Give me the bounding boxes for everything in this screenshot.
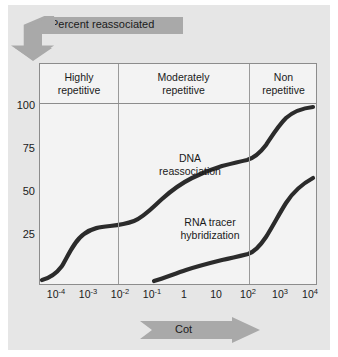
x-tick-1e-2: 10-2 (111, 288, 129, 300)
curve-dna-reassociation (42, 107, 313, 280)
curve-label-dna-line1: DNA (144, 152, 236, 165)
curve-label-dna: DNA reassociation (144, 152, 236, 177)
x-tick-1e4: 104 (302, 288, 318, 300)
curve-label-dna-line2: reassociation (144, 165, 236, 178)
y-tick-75: 75 (23, 142, 35, 154)
x-tick-1e2: 102 (240, 288, 256, 300)
region-header-row: Highly repetitive Moderately repetitive … (39, 63, 317, 104)
y-axis-banner: Percent reassociated (43, 17, 183, 34)
x-tick-1: 1 (181, 288, 187, 300)
curve-label-rna: RNA tracer hybridization (164, 216, 256, 241)
region-header-highly-repetitive: Highly repetitive (40, 64, 118, 103)
region-label-line1: Non (274, 71, 293, 83)
x-axis-banner-label: Cot (175, 323, 192, 335)
x-axis-arrow-icon (140, 317, 260, 343)
region-label-line2: repetitive (162, 84, 205, 96)
region-label-line1: Moderately (158, 71, 210, 83)
x-tick-1e-4: 10-4 (47, 288, 65, 300)
figure-root: Percent reassociated Highly repetitive M… (0, 0, 338, 357)
curve-label-rna-line2: hybridization (164, 229, 256, 242)
y-tick-25: 25 (23, 228, 35, 240)
y-tick-50: 50 (23, 185, 35, 197)
x-tick-10: 10 (210, 288, 222, 300)
region-divider-1-plot (118, 104, 119, 284)
region-label-line2: repetitive (262, 84, 305, 96)
x-tick-1e3: 103 (272, 288, 288, 300)
plot-area: DNA reassociation RNA tracer hybridizati… (39, 104, 317, 285)
x-tick-1e-1: 10-1 (143, 288, 161, 300)
curve-label-rna-line1: RNA tracer (164, 216, 256, 229)
region-label-line1: Highly (64, 71, 93, 83)
region-divider-1 (118, 64, 119, 103)
region-header-moderately-repetitive: Moderately repetitive (118, 64, 249, 103)
x-tick-1e-3: 10-3 (79, 288, 97, 300)
x-tick-labels: 10-4 10-3 10-2 10-1 1 10 102 103 104 (39, 288, 317, 304)
y-tick-100: 100 (17, 99, 35, 111)
region-divider-2-plot (249, 104, 250, 284)
region-label-line2: repetitive (58, 84, 101, 96)
curves-layer (40, 104, 316, 283)
region-header-non-repetitive: Non repetitive (249, 64, 318, 103)
y-axis-banner-label: Percent reassociated (51, 18, 154, 30)
y-axis-arrow-icon (12, 17, 56, 62)
region-divider-2 (249, 64, 250, 103)
y-tick-labels: 100 75 50 25 (0, 104, 35, 285)
